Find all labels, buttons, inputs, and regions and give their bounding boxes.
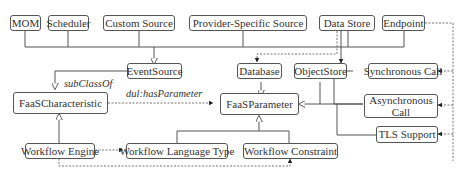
node-faascharacteristic: FaaSCharacteristic — [13, 92, 108, 114]
node-asynchronous-call: Asynchronous Call — [364, 94, 438, 118]
node-mom: MOM — [10, 15, 41, 31]
node-provider-specific-source: Provider-Specific Source — [189, 15, 307, 31]
node-workflow-engine: Workflow Engine — [25, 143, 95, 159]
node-endpoint: Endpoint — [382, 15, 425, 31]
node-objectstore: ObjectStore — [294, 63, 347, 79]
subclassof-label: subClassOf — [64, 78, 112, 89]
node-faasparameter: FaaSParameter — [220, 93, 299, 115]
node-scheduler: Scheduler — [48, 15, 89, 31]
node-tls-support: TLS Support — [376, 126, 438, 143]
node-workflow-constraint: Workflow Constraint — [243, 143, 338, 159]
hasparameter-label: dul:hasParameter — [126, 88, 202, 99]
node-eventsource: EventSource — [127, 63, 182, 79]
node-workflow-language-type: Workflow Language Type — [126, 143, 228, 159]
node-custom-source: Custom Source — [103, 15, 175, 31]
node-database: Database — [237, 63, 282, 79]
node-synchronous-call: Synchronous Call — [368, 63, 438, 79]
node-data-store: Data Store — [319, 15, 375, 31]
